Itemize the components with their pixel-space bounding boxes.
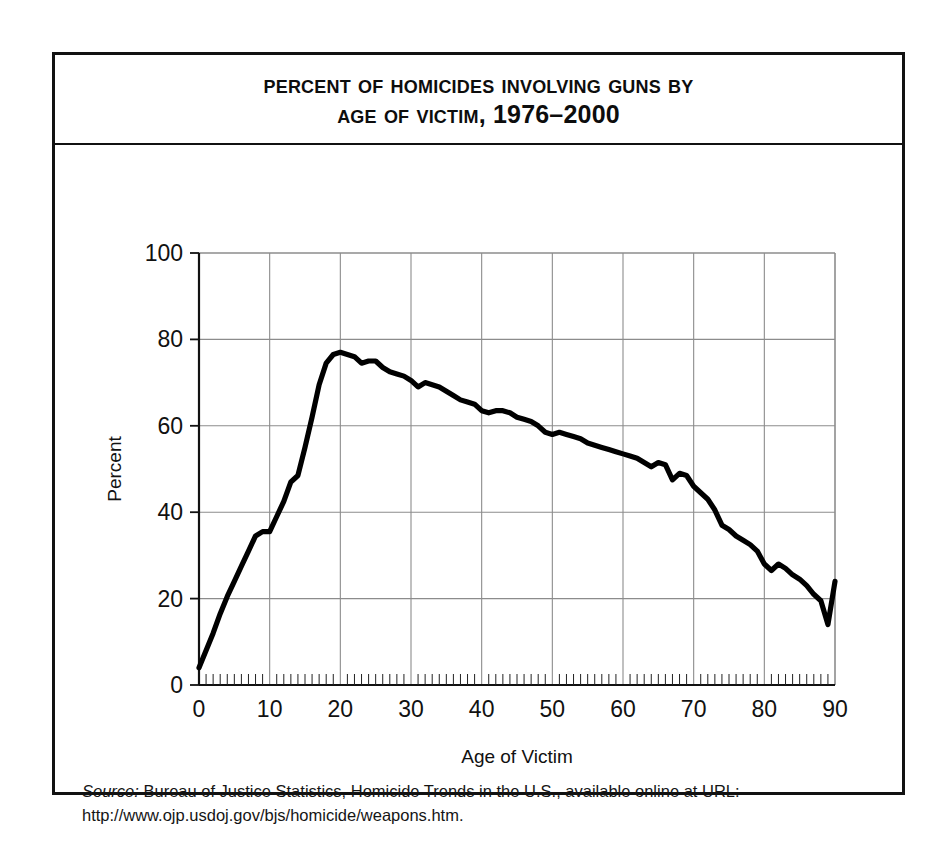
page-title: Percent of Homicides Involving Guns by A… [243,69,713,130]
x-axis-tick-label: 30 [398,696,424,722]
x-axis-tick-label: 40 [469,696,495,722]
title-line-1: Percent of Homicides Involving Guns by [263,69,693,100]
x-axis-tick-label: 50 [540,696,566,722]
y-axis-tick-label: 20 [157,586,183,612]
title-band: Percent of Homicides Involving Guns by A… [55,55,902,145]
title-line-2: Age of Victim, 1976–2000 [263,99,693,130]
source-label: Source: [82,782,139,800]
y-axis-tick-label: 60 [157,413,183,439]
y-axis-tick-label: 40 [157,499,183,525]
x-axis-tick-label: 70 [681,696,707,722]
x-axis-tick-label: 80 [752,696,778,722]
x-axis-tick-label: 60 [610,696,636,722]
x-axis-tick-label: 0 [193,696,206,722]
x-axis-tick-label: 90 [822,696,848,722]
line-chart: 0204060801000102030405060708090Age of Vi… [55,145,902,775]
y-axis-tick-label: 0 [170,672,183,698]
source-note: Source: Bureau of Justice Statistics, Ho… [82,780,872,828]
y-axis-tick-label: 100 [145,240,183,266]
source-body: Bureau of Justice Statistics, Homicide T… [82,782,740,824]
data-series-line [199,352,835,667]
y-axis-title: Percent [104,436,125,502]
y-axis-tick-label: 80 [157,326,183,352]
x-axis-tick-label: 20 [328,696,354,722]
x-axis-tick-label: 10 [257,696,283,722]
figure-frame: Percent of Homicides Involving Guns by A… [52,52,905,795]
plot-zone: 0204060801000102030405060708090Age of Vi… [55,145,902,792]
x-axis-title: Age of Victim [461,746,573,767]
